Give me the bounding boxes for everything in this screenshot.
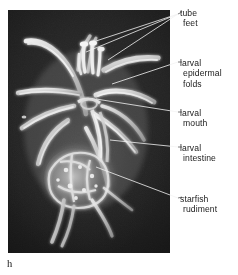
label-tube-feet: tube feet <box>180 8 198 29</box>
label-larval-mouth-line1: larval <box>180 108 207 118</box>
label-larval-mouth-line2: mouth <box>180 118 207 128</box>
starfish-rudiment-structure <box>44 148 108 208</box>
label-epidermal-folds-line1: larval <box>180 58 222 68</box>
debris-speck <box>22 115 27 118</box>
label-larval-intestine-line1: larval <box>180 143 216 153</box>
label-larval-epidermal-folds: larval epidermal folds <box>180 58 222 89</box>
label-tube-feet-line1: tube <box>180 8 198 18</box>
figure-panel-letter: h <box>7 258 12 269</box>
label-epidermal-folds-line2: epidermal <box>180 68 222 78</box>
label-starfish-rudiment-line1: starfish <box>180 194 217 204</box>
micrograph-photo <box>8 10 170 253</box>
starfish-larva-specimen <box>8 10 170 253</box>
figure-container: tube feet larval epidermal folds larval … <box>0 0 238 275</box>
label-starfish-rudiment: starfish rudiment <box>180 194 217 215</box>
label-larval-mouth: larval mouth <box>180 108 207 129</box>
label-starfish-rudiment-line2: rudiment <box>180 204 217 214</box>
label-larval-intestine: larval intestine <box>180 143 216 164</box>
label-epidermal-folds-line3: folds <box>180 79 222 89</box>
label-tube-feet-line2: feet <box>180 18 198 28</box>
label-larval-intestine-line2: intestine <box>180 153 216 163</box>
